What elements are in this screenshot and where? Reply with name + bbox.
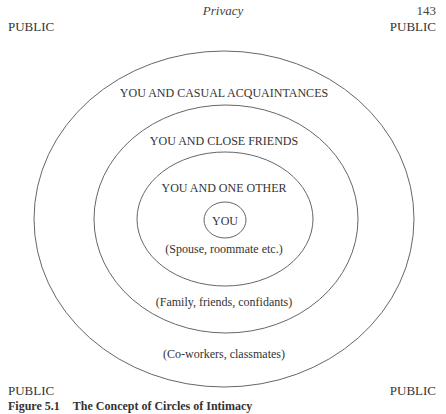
- figure-caption: Figure 5.1 The Concept of Circles of Int…: [8, 399, 252, 414]
- ring-one-other-subtitle: (Spouse, roommate etc.): [165, 242, 282, 256]
- ring-casual-title: YOU AND CASUAL ACQUAINTANCES: [120, 86, 328, 100]
- ring-one-other-title: YOU AND ONE OTHER: [162, 181, 287, 195]
- ring-close-subtitle: (Family, friends, confidants): [156, 295, 293, 309]
- figure-title: The Concept of Circles of Intimacy: [73, 399, 252, 413]
- ring-casual-subtitle: (Co-workers, classmates): [163, 347, 285, 361]
- ring-close-title: YOU AND CLOSE FRIENDS: [150, 134, 298, 148]
- ring-you-title: YOU: [212, 214, 238, 228]
- figure-label: Figure 5.1: [8, 399, 60, 413]
